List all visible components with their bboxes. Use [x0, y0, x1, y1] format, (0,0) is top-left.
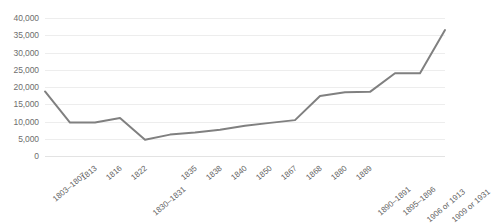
y-tick-label: 5,000 [18, 134, 39, 144]
x-tick-label: 1880 [329, 164, 348, 182]
y-tick-label: 40,000 [14, 13, 39, 23]
x-tick-label: 1867 [279, 164, 298, 182]
x-tick-label: 1868 [304, 164, 323, 182]
x-tick-label: 1835 [179, 164, 198, 182]
x-tick-label: 1822 [129, 164, 148, 182]
plot-area [45, 18, 445, 156]
x-tick-label: 1838 [204, 164, 223, 182]
x-tick-label: 1850 [254, 164, 273, 182]
x-tick-label: 1840 [229, 164, 248, 182]
x-tick-label: 1816 [104, 164, 123, 182]
y-tick-label: 0 [34, 151, 39, 161]
y-tick-label: 35,000 [14, 30, 39, 40]
x-tick-label: 1813 [79, 164, 98, 182]
x-axis: 1803–18071813181618221830–18311835183818… [45, 158, 445, 220]
y-tick-label: 15,000 [14, 99, 39, 109]
series-polyline [45, 30, 445, 140]
gridline [45, 156, 445, 157]
y-tick-label: 30,000 [14, 48, 39, 58]
data-series-line [45, 18, 445, 156]
x-tick-label: 1889 [354, 164, 373, 182]
y-tick-label: 25,000 [14, 65, 39, 75]
y-tick-label: 20,000 [14, 82, 39, 92]
x-tick-label: 1830–1831 [151, 185, 187, 218]
y-axis: 40,00035,00030,00025,00020,00015,00010,0… [0, 0, 42, 162]
y-tick-label: 10,000 [14, 117, 39, 127]
